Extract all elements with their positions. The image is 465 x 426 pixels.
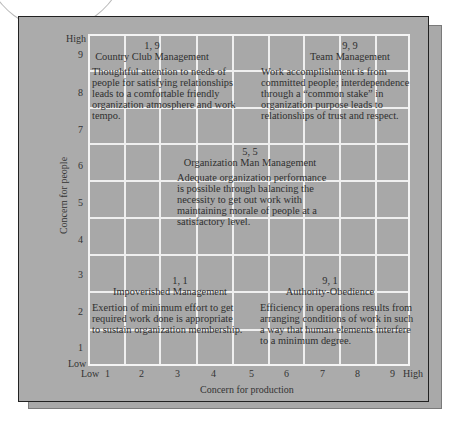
style-1-9-coords: 1, 9 [92, 40, 212, 51]
x-tick-9: 9 [390, 368, 395, 379]
x-tick-3: 3 [175, 368, 180, 379]
x-axis-title: Concern for production [200, 384, 294, 395]
y-tick-8: 8 [78, 87, 83, 98]
style-9-1-name: Authority-Obedience [270, 286, 390, 297]
style-5-5-name: Organization Man Management [180, 157, 320, 168]
x-tick-4: 4 [211, 368, 216, 379]
x-axis-high-label: High [403, 368, 423, 379]
x-axis-low-label: Low [81, 368, 99, 379]
style-1-1-description: Exertion of minimum effort to get requir… [92, 302, 242, 335]
style-9-9-description: Work accomplishment is from committed pe… [261, 66, 409, 121]
y-axis-title: Concern for people [58, 151, 69, 241]
y-tick-3: 3 [78, 269, 83, 280]
y-tick-7: 7 [78, 124, 83, 135]
x-tick-5: 5 [249, 368, 254, 379]
style-9-9-coords: 9, 9 [290, 40, 410, 51]
y-tick-2: 2 [78, 306, 83, 317]
x-tick-7: 7 [320, 368, 325, 379]
style-1-1-coords: 1, 1 [110, 275, 250, 286]
x-tick-6: 6 [284, 368, 289, 379]
y-axis-high-label: High [66, 33, 86, 44]
style-9-1-description: Efficiency in operations results from ar… [260, 302, 413, 346]
y-tick-4: 4 [78, 234, 83, 245]
style-1-1-name: Impoverished Management [100, 286, 240, 297]
x-tick-1: 1 [105, 368, 110, 379]
style-9-1-coords: 9, 1 [270, 275, 390, 286]
y-tick-5: 5 [78, 197, 83, 208]
x-tick-2: 2 [139, 368, 144, 379]
x-tick-8: 8 [355, 368, 360, 379]
y-tick-9: 9 [78, 49, 83, 60]
style-5-5-coords: 5, 5 [190, 146, 310, 157]
style-9-9-name: Team Management [290, 51, 410, 62]
style-1-9-description: Thoughtful attention to needs of people … [92, 66, 236, 121]
grid-hline [90, 254, 408, 256]
y-tick-6: 6 [78, 160, 83, 171]
style-5-5-description: Adequate organization performance is pos… [177, 172, 326, 227]
grid-hline [90, 143, 408, 145]
style-1-9-name: Country Club Management [92, 51, 212, 62]
y-tick-1: 1 [78, 342, 83, 353]
